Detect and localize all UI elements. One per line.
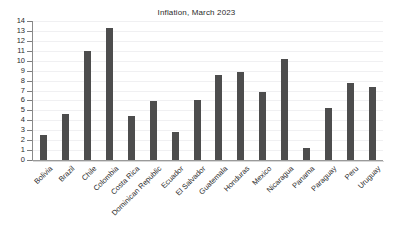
y-axis-tick-label: 6: [1, 96, 25, 104]
y-axis-tick-label: 2: [1, 136, 25, 144]
y-axis-tick-label: 12: [1, 37, 25, 45]
bar: [237, 72, 244, 160]
y-axis-tick: [27, 31, 32, 32]
bar: [128, 116, 135, 160]
x-axis-tick-label-text: Brazil: [57, 164, 77, 184]
x-axis-tick-label: Peru: [343, 164, 361, 182]
y-axis-tick: [27, 130, 32, 131]
y-axis-tick: [27, 41, 32, 42]
y-axis-tick-label: 13: [1, 27, 25, 35]
x-axis-tick-label: Brazil: [57, 164, 77, 184]
y-axis-tick: [27, 61, 32, 62]
bar: [150, 101, 157, 160]
y-axis-tick-label: 10: [1, 57, 25, 65]
x-axis-tick-label: Uruguay: [356, 164, 382, 190]
chart-title: Inflation, March 2023: [0, 8, 393, 17]
x-axis-tick-label-text: Bolivia: [32, 164, 54, 186]
y-axis-tick: [27, 81, 32, 82]
bar: [84, 51, 91, 160]
bar: [172, 132, 179, 160]
x-axis-tick-label: Bolivia: [32, 164, 54, 186]
y-axis-tick-label: 0: [1, 156, 25, 164]
bar: [194, 100, 201, 160]
bar: [40, 135, 47, 160]
y-axis-tick: [27, 71, 32, 72]
y-axis-tick: [27, 140, 32, 141]
y-axis-labels: 01234567891011121314: [0, 0, 25, 238]
bar: [106, 28, 113, 160]
x-axis-labels: BoliviaBrazilChileColombiaCosta RicaDomi…: [33, 162, 383, 238]
y-axis-tick-label: 1: [1, 146, 25, 154]
bar: [62, 114, 69, 160]
bar: [347, 83, 354, 160]
y-axis-tick: [27, 110, 32, 111]
bars-layer: [33, 21, 383, 160]
bar: [325, 108, 332, 160]
y-axis-tick-label: 7: [1, 87, 25, 95]
y-axis-tick-label: 4: [1, 116, 25, 124]
y-axis-tick-label: 5: [1, 106, 25, 114]
x-axis-tick-label-text: Uruguay: [356, 164, 382, 190]
y-axis-tick: [27, 150, 32, 151]
y-axis-tick-label: 14: [1, 17, 25, 25]
x-axis-tick-label-text: Peru: [343, 164, 361, 182]
x-axis-tick-label-text: Chile: [80, 164, 98, 182]
y-axis-tick: [27, 160, 32, 161]
y-axis-tick: [27, 21, 32, 22]
y-axis-tick-label: 3: [1, 126, 25, 134]
bar: [303, 148, 310, 160]
y-axis-tick-label: 8: [1, 77, 25, 85]
bar: [215, 75, 222, 160]
y-axis-tick: [27, 120, 32, 121]
bar: [369, 87, 376, 160]
inflation-bar-chart: Inflation, March 2023 012345678910111213…: [0, 0, 393, 238]
y-axis-tick-label: 11: [1, 47, 25, 55]
y-axis-tick-label: 9: [1, 67, 25, 75]
bar: [281, 59, 288, 160]
y-axis-tick: [27, 100, 32, 101]
bar: [259, 92, 266, 160]
x-axis-tick-label: Chile: [80, 164, 98, 182]
y-axis-tick: [27, 51, 32, 52]
y-axis-tick: [27, 91, 32, 92]
